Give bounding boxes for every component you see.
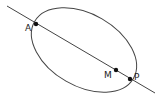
point-p: P (128, 72, 140, 82)
diagram-canvas: A M P (0, 0, 160, 103)
point-a-dot (34, 22, 38, 26)
point-a-label: A (25, 23, 32, 33)
point-p-label: P (134, 72, 140, 82)
point-m: M (104, 68, 118, 80)
point-m-dot (114, 68, 118, 72)
point-p-dot (128, 77, 132, 81)
point-m-label: M (104, 70, 112, 80)
